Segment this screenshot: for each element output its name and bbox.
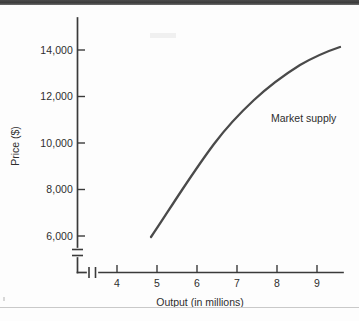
y-tick-label-6000: 6,000: [20, 230, 73, 242]
x-tick-label-8: 8: [267, 277, 287, 289]
x-tick-label-6: 6: [187, 277, 207, 289]
market-supply-curve: [151, 47, 340, 237]
chart-figure: 14,000 12,000 10,000 8,000 6,000 4 5 6 7…: [0, 0, 359, 321]
x-tick-label-7: 7: [227, 277, 247, 289]
x-tick-label-4: 4: [107, 277, 127, 289]
y-tick-label-8000: 8,000: [20, 183, 73, 195]
y-tick-label-10000: 10,000: [20, 137, 73, 149]
y-axis-title: Price ($): [9, 114, 21, 178]
x-tick-label-9: 9: [307, 277, 327, 289]
y-tick-label-14000: 14,000: [20, 44, 73, 56]
x-tick-label-5: 5: [147, 277, 167, 289]
market-supply-label: Market supply: [271, 112, 336, 124]
y-tick-label-12000: 12,000: [20, 90, 73, 102]
scan-bottom-rule: [0, 307, 359, 308]
